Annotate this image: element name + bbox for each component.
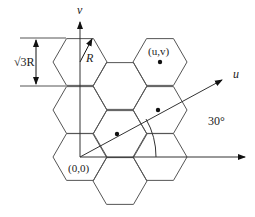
hexagon-cell xyxy=(93,111,147,158)
lattice-point-dot xyxy=(158,60,162,64)
origin-label: (0,0) xyxy=(68,162,89,175)
v-axis-label: v xyxy=(77,3,83,17)
lattice-point-dot xyxy=(115,132,119,136)
angle-label: 30° xyxy=(208,114,225,128)
hexagon-cell xyxy=(93,158,147,205)
hex-lattice-diagram: v u R √3R (u,v) (0,0) 30° xyxy=(0,0,255,217)
hexagon-cell xyxy=(93,63,147,110)
radius-label: R xyxy=(85,51,94,65)
angle-arc xyxy=(146,119,156,157)
u-axis xyxy=(80,80,222,157)
u-axis-label: u xyxy=(233,67,239,81)
lattice-point-dot xyxy=(156,108,160,112)
point-uv-label: (u,v) xyxy=(148,45,169,58)
height-dimension-label: √3R xyxy=(14,55,35,69)
hexagon-grid xyxy=(53,39,187,205)
